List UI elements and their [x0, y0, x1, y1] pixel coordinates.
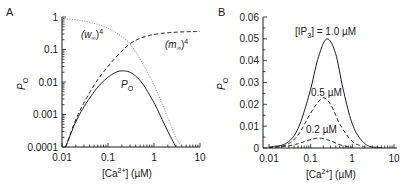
panel-a-xtick-0.1: 0.1 — [101, 152, 115, 163]
w-inf-label: (w∞)4 — [81, 28, 103, 41]
panel-a-xtick-0.01: 0.01 — [52, 152, 72, 163]
panel-a-xtick-10: 10 — [194, 152, 206, 163]
m-inf-label: (m∞)4 — [165, 38, 188, 51]
panel-a-ytick-0.01: 0.01 — [39, 77, 59, 88]
panel-b-label: B — [218, 6, 225, 18]
panel-b-xtick-10: 10 — [388, 153, 400, 164]
panel-a: A 1 0.1 0.01 0.001 0.0001 0.01 0.1 1 10 … — [6, 6, 206, 179]
panel-b-xtick-0.01: 0.01 — [259, 153, 279, 164]
ip3-0.2-label: 0.2 µM — [306, 124, 337, 135]
panel-b-ytick-0.04: 0.04 — [240, 55, 260, 66]
panel-a-ytick-1: 1 — [52, 12, 58, 23]
panel-a-ytick-0.1: 0.1 — [44, 44, 58, 55]
panel-a-ytick-0.001: 0.001 — [33, 109, 58, 120]
panel-b-x-title: [Ca2+] (µM) — [306, 168, 356, 180]
panel-b-ytick-0.06: 0.06 — [240, 12, 260, 23]
panel-a-ytick-0.0001: 0.0001 — [27, 142, 58, 153]
panel-a-label: A — [6, 6, 14, 18]
panel-b-y-ticks — [263, 17, 267, 148]
panel-b-ytick-0.03: 0.03 — [240, 77, 260, 88]
panel-b-ytick-0.01: 0.01 — [240, 121, 260, 132]
ip3-1.0-label: [IP3] = 1.0 µM — [295, 26, 356, 39]
panel-b-ytick-0: 0 — [253, 143, 259, 154]
panel-b-xtick-1: 1 — [349, 153, 355, 164]
panel-a-y-minor-ticks — [62, 17, 66, 147]
panel-b: B 0.06 0.05 0.04 0.03 0.02 0.01 0 0.01 0… — [216, 6, 400, 180]
panel-b-ytick-0.05: 0.05 — [240, 33, 260, 44]
po-label-a: PO — [121, 79, 134, 92]
ip3-0.5-label: 0.5 µM — [311, 87, 342, 98]
panel-b-ytick-0.02: 0.02 — [240, 99, 260, 110]
panel-b-y-title: PO — [216, 77, 229, 90]
panel-a-xtick-1: 1 — [151, 152, 157, 163]
panel-a-x-title: [Ca2+] (µM) — [102, 167, 152, 179]
panel-a-y-title: PO — [16, 77, 29, 90]
ip3-0.5-curve — [269, 98, 365, 148]
figure: A 1 0.1 0.01 0.001 0.0001 0.01 0.1 1 10 … — [0, 0, 411, 194]
panel-b-xtick-0.1: 0.1 — [304, 153, 318, 164]
